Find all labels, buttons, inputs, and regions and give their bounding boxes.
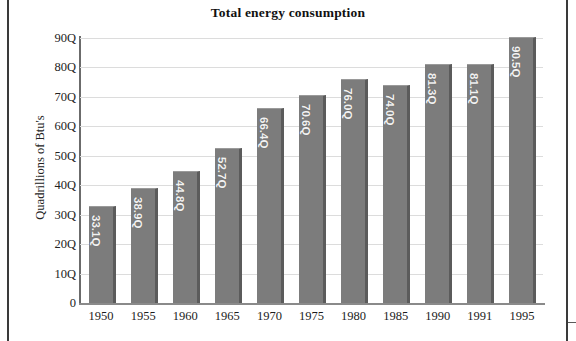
bar: 81.1Q	[467, 64, 494, 303]
y-axis-tick-label: 10Q	[30, 266, 76, 281]
y-axis-tick-label: 80Q	[30, 60, 76, 75]
y-axis-tick-label: 60Q	[30, 119, 76, 134]
bar: 90.5Q	[509, 37, 536, 303]
y-axis-tick-label: 30Q	[30, 207, 76, 222]
bar: 38.9Q	[131, 188, 158, 303]
bar-value-label-wrapper: 74.0Q	[383, 90, 410, 150]
y-axis-tick-labels: 010Q20Q30Q40Q50Q60Q70Q80Q90Q	[24, 38, 76, 303]
bar: 76.0Q	[341, 79, 368, 303]
bar-value-label: 90.5Q	[510, 46, 522, 77]
y-axis-tick-label: 40Q	[30, 178, 76, 193]
x-axis-tick-labels: 1950195519601965197019751980198519901991…	[80, 309, 543, 329]
bar-value-label-wrapper: 38.9Q	[131, 193, 158, 253]
y-axis-tick-label: 0	[30, 296, 76, 311]
bar-value-label-wrapper: 44.8Q	[173, 176, 200, 236]
bar-value-label: 70.6Q	[300, 104, 312, 135]
bar-value-label-wrapper: 70.6Q	[299, 100, 326, 160]
bar-value-label-wrapper: 66.4Q	[257, 113, 284, 173]
bar-value-label: 74.0Q	[384, 94, 396, 125]
bar: 44.8Q	[173, 171, 200, 303]
page-border-tick	[568, 322, 576, 323]
bar-value-label-wrapper: 76.0Q	[341, 84, 368, 144]
bar: 66.4Q	[257, 108, 284, 304]
y-axis-tick-label: 70Q	[30, 89, 76, 104]
bar: 70.6Q	[299, 95, 326, 303]
bar-value-label-wrapper: 81.3Q	[425, 69, 452, 129]
x-axis-tick-label: 1995	[494, 309, 550, 324]
gridline	[80, 38, 543, 39]
bar-value-label: 81.1Q	[468, 73, 480, 104]
bar: 74.0Q	[383, 85, 410, 303]
bar-value-label: 76.0Q	[342, 88, 354, 119]
bar-value-label: 81.3Q	[426, 73, 438, 104]
bar-value-label: 38.9Q	[132, 197, 144, 228]
bar: 52.7Q	[215, 148, 242, 303]
bar-value-label: 33.1Q	[90, 215, 102, 246]
bar-value-label-wrapper: 33.1Q	[89, 211, 116, 271]
bar: 81.3Q	[425, 64, 452, 303]
page-border-left	[7, 0, 9, 341]
y-axis-tick-label: 50Q	[30, 148, 76, 163]
chart-title: Total energy consumption	[0, 5, 576, 21]
bar-value-label-wrapper: 52.7Q	[215, 153, 242, 213]
bar-value-label-wrapper: 90.5Q	[509, 42, 536, 102]
bar-value-label: 44.8Q	[174, 180, 186, 211]
chart-page: Total energy consumption Quadrillions of…	[0, 0, 576, 341]
y-axis-tick-label: 90Q	[30, 31, 76, 46]
bar-value-label: 66.4Q	[258, 117, 270, 148]
page-border-right	[566, 0, 568, 341]
y-axis-tick-label: 20Q	[30, 237, 76, 252]
bar-value-label: 52.7Q	[216, 157, 228, 188]
bar: 33.1Q	[89, 206, 116, 303]
bar-value-label-wrapper: 81.1Q	[467, 69, 494, 129]
plot-area: 33.1Q38.9Q44.8Q52.7Q66.4Q70.6Q76.0Q74.0Q…	[80, 38, 543, 303]
x-axis-line	[79, 303, 545, 305]
